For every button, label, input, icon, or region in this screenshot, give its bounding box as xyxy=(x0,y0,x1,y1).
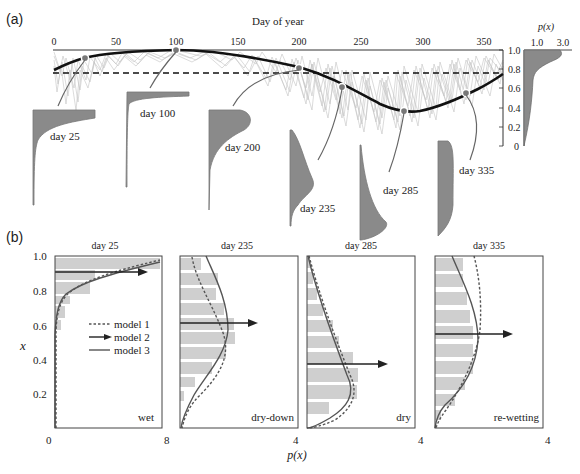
svg-text:250: 250 xyxy=(354,36,369,47)
svg-text:0.8: 0.8 xyxy=(508,64,521,75)
svg-text:8: 8 xyxy=(164,434,170,446)
svg-text:1.0: 1.0 xyxy=(508,45,521,56)
svg-text:day 235: day 235 xyxy=(300,202,336,214)
svg-text:100: 100 xyxy=(169,36,184,47)
svg-text:0.6: 0.6 xyxy=(33,320,47,332)
legend-model3-label: model 3 xyxy=(114,344,150,356)
svg-text:0.4: 0.4 xyxy=(508,103,521,114)
svg-text:day 25: day 25 xyxy=(92,240,119,251)
svg-text:1.0: 1.0 xyxy=(531,37,544,48)
svg-text:4: 4 xyxy=(293,434,299,446)
panel-b-label: (b) xyxy=(6,229,23,245)
svg-text:day 235: day 235 xyxy=(221,240,253,251)
svg-text:0.4: 0.4 xyxy=(33,354,47,366)
b-plot-day-235: dry-down xyxy=(180,256,298,428)
svg-text:4: 4 xyxy=(418,434,424,446)
svg-text:day 100: day 100 xyxy=(140,107,176,119)
marginal-ticks: 1.0 3.0 xyxy=(531,37,570,48)
svg-text:0: 0 xyxy=(514,141,519,152)
svg-text:day 25: day 25 xyxy=(50,130,80,142)
svg-text:50: 50 xyxy=(111,36,121,47)
figure: (a) Day of year 0 50 100 150 200 250 300… xyxy=(0,0,580,474)
legend-model2-label: model 2 xyxy=(114,331,150,343)
svg-text:4: 4 xyxy=(545,434,551,446)
svg-text:day 335: day 335 xyxy=(473,240,505,251)
regime-label: re-wetting xyxy=(494,411,540,423)
svg-text:day 285: day 285 xyxy=(345,240,377,251)
svg-text:300: 300 xyxy=(416,36,431,47)
svg-text:200: 200 xyxy=(292,36,307,47)
inset-day-200 xyxy=(209,110,250,210)
svg-text:0.8: 0.8 xyxy=(33,285,47,297)
inset-labels: day 25 day 100 day 200 day 235 day 285 d… xyxy=(50,107,495,214)
b-xlabel: p(x) xyxy=(286,448,306,462)
top-axis-title: Day of year xyxy=(252,15,304,27)
inset-day-335 xyxy=(438,141,453,236)
regime-label: dry xyxy=(396,411,411,423)
b-xaxis-ticks: 0 8 4 4 4 xyxy=(46,434,551,446)
marginal-title: p(x) xyxy=(537,21,555,33)
panel-a-label: (a) xyxy=(6,11,23,27)
svg-text:0.2: 0.2 xyxy=(508,122,521,133)
svg-text:1.0: 1.0 xyxy=(33,250,47,262)
svg-text:0: 0 xyxy=(46,434,52,446)
svg-text:150: 150 xyxy=(231,36,246,47)
right-axis-labels: 1.0 0.8 0.6 0.4 0.2 0 xyxy=(508,45,521,152)
regime-label: wet xyxy=(138,411,154,423)
arrowhead-icon xyxy=(378,360,388,368)
inset-densities xyxy=(33,92,453,240)
svg-text:0.2: 0.2 xyxy=(33,388,47,400)
svg-text:3.0: 3.0 xyxy=(557,37,570,48)
b-ylabel: x xyxy=(19,338,26,353)
b-yaxis-labels: 1.0 0.8 0.6 0.4 0.2 xyxy=(33,250,47,400)
b-plot-day-335: re-wetting xyxy=(435,256,543,428)
inset-day-25 xyxy=(33,110,95,205)
regime-label: dry-down xyxy=(251,411,294,423)
marginal-density xyxy=(524,50,562,146)
b-plot-day-285: dry xyxy=(307,256,415,428)
top-axis-ticks: 0 50 100 150 200 250 300 350 xyxy=(52,36,492,47)
arrowhead-icon xyxy=(503,330,513,338)
svg-text:0.6: 0.6 xyxy=(508,83,521,94)
svg-text:0: 0 xyxy=(52,36,57,47)
legend-model1-label: model 1 xyxy=(114,318,150,330)
histogram-day-235 xyxy=(180,258,235,401)
legend: model 1 model 2 model 3 xyxy=(89,318,150,356)
svg-text:350: 350 xyxy=(477,36,492,47)
svg-text:day 335: day 335 xyxy=(459,164,495,176)
svg-text:day 285: day 285 xyxy=(383,184,419,196)
arrowhead-icon xyxy=(138,268,148,276)
b-panel-titles: day 25 day 235 day 285 day 335 xyxy=(92,240,505,251)
arrowhead-icon xyxy=(248,319,258,327)
svg-text:day 200: day 200 xyxy=(225,141,261,153)
legend-arrow-icon xyxy=(104,334,112,340)
